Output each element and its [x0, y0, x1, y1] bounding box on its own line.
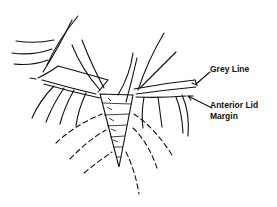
- anterior-lid-margin-label-line1: Anterior Lid: [210, 100, 258, 110]
- lower-lashes: [32, 86, 188, 136]
- upper-left-lashes: [12, 16, 78, 72]
- leader-lines: [188, 72, 212, 108]
- grey-line-label: Grey Line: [210, 64, 249, 74]
- anterior-lid-margin-label-line2: Margin: [210, 111, 238, 121]
- eyelid-diagram: Grey Line Anterior Lid Margin: [0, 0, 277, 207]
- lid-margin: [30, 66, 196, 98]
